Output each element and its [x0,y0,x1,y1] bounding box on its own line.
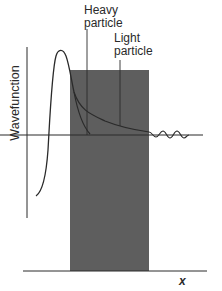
x-axis-label: x [179,274,186,288]
light-label-line2: particle [114,45,153,58]
heavy-particle-label: Heavy particle [84,4,123,30]
y-axis-label: Wavefunction [8,63,22,143]
light-particle-label: Light particle [114,32,153,58]
heavy-label-line2: particle [84,17,123,30]
incident-wave [36,50,74,196]
potential-barrier [70,70,149,271]
tunneling-diagram [0,0,222,291]
